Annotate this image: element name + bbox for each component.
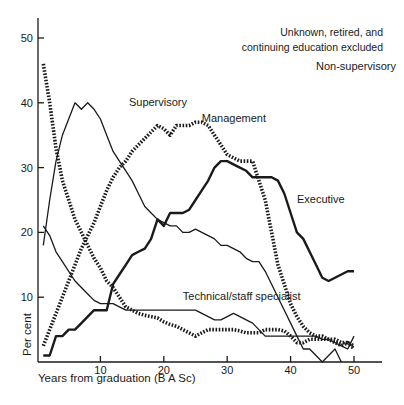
series-lines (43, 64, 354, 362)
series-labels: Non-supervisorySupervisoryManagementExec… (129, 60, 397, 302)
series-line-technical-staff-specialist (43, 226, 354, 349)
y-ticks: 1020304050 (21, 32, 44, 303)
y-tick-label: 40 (21, 97, 33, 109)
series-label-executive: Executive (297, 193, 345, 205)
x-tick-label: 30 (221, 364, 233, 376)
annotation-line-2: continuing education excluded (242, 41, 383, 53)
series-label-supervisory: Supervisory (129, 96, 188, 108)
x-tick-label: 50 (348, 364, 360, 376)
y-tick-label: 10 (21, 291, 33, 303)
annotation-line-1: Unknown, retired, and (280, 26, 383, 38)
series-line-non-supervisory (43, 64, 354, 349)
series-line-executive (43, 161, 354, 355)
series-label-non-supervisory: Non-supervisory (316, 60, 397, 72)
line-chart: 1020304050 1020304050 Non-supervisorySup… (0, 0, 404, 405)
y-tick-label: 20 (21, 226, 33, 238)
y-axis-title: Per cent (21, 312, 33, 356)
x-tick-label: 40 (284, 364, 296, 376)
series-label-technical-staff-specialist: Technical/staff specialist (183, 290, 301, 302)
y-tick-label: 50 (21, 32, 33, 44)
series-label-management: Management (202, 112, 266, 124)
x-axis-title: Years from graduation (B A Sc) (38, 372, 196, 384)
y-tick-label: 30 (21, 162, 33, 174)
